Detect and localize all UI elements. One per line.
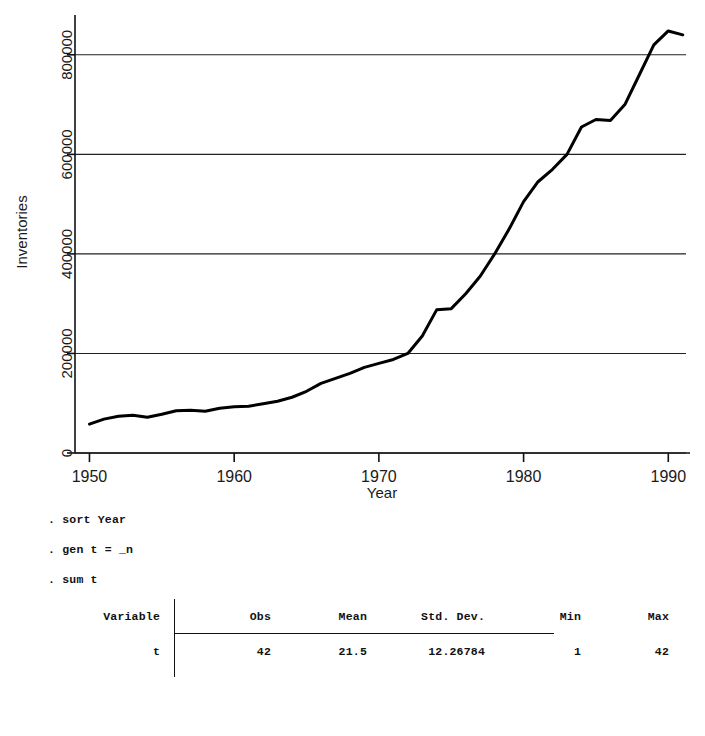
cell-std-dev: 12.26784 xyxy=(367,638,485,664)
horizontal-rule xyxy=(174,633,554,634)
x-tick-label: 1990 xyxy=(650,468,686,485)
x-tick-label: 1970 xyxy=(361,468,397,485)
header-variable: Variable xyxy=(48,603,174,629)
summary-statistics-table: Variable Obs Mean Std. Dev. Min Max t 42… xyxy=(0,603,705,664)
y-tick-label: 800000 xyxy=(58,30,75,80)
header-min: Min xyxy=(485,603,581,629)
header-obs: Obs xyxy=(175,603,271,629)
inventories-line-chart: 0200000400000600000800000 19501960197019… xyxy=(0,0,705,510)
header-mean: Mean xyxy=(271,603,367,629)
command-line: . gen t = _n xyxy=(0,535,705,565)
chart-canvas: 0200000400000600000800000 19501960197019… xyxy=(0,0,705,510)
cell-mean: 21.5 xyxy=(271,638,367,664)
y-tick-label: 600000 xyxy=(58,129,75,179)
command-line: . sum t xyxy=(0,565,705,595)
cell-min: 1 xyxy=(485,638,581,664)
header-max: Max xyxy=(581,603,669,629)
cell-obs: 42 xyxy=(175,638,271,664)
cell-max: 42 xyxy=(581,638,669,664)
y-tick-label: 200000 xyxy=(58,328,75,378)
x-tick-label: 1960 xyxy=(216,468,252,485)
stata-console-output: . sort Year . gen t = _n . sum t Variabl… xyxy=(0,505,705,664)
x-tick-label: 1980 xyxy=(506,468,542,485)
x-tick-label: 1950 xyxy=(72,468,108,485)
table-row: t 42 21.5 12.26784 1 42 xyxy=(48,638,669,664)
x-tick-group: 19501960197019801990 xyxy=(72,453,687,485)
x-axis-label: Year xyxy=(367,484,397,501)
header-std-dev: Std. Dev. xyxy=(367,603,485,629)
y-axis-label: Inventories xyxy=(13,195,30,268)
y-tick-label: 0 xyxy=(58,449,75,457)
cell-variable: t xyxy=(48,638,174,664)
command-line: . sort Year xyxy=(0,505,705,535)
axis-spines-group xyxy=(75,15,690,453)
inventories-series-line xyxy=(89,31,682,424)
y-tick-label: 400000 xyxy=(58,229,75,279)
y-tick-group: 0200000400000600000800000 xyxy=(58,30,75,457)
vertical-rule xyxy=(174,625,175,677)
table-header-row: Variable Obs Mean Std. Dev. Min Max xyxy=(48,603,669,629)
summary-table-body: t 42 21.5 12.26784 1 42 xyxy=(48,638,669,664)
summary-table: Variable Obs Mean Std. Dev. Min Max xyxy=(48,603,669,629)
header-rule-wrap xyxy=(48,629,705,638)
row-divider xyxy=(174,638,175,664)
gridlines-group xyxy=(75,55,686,453)
